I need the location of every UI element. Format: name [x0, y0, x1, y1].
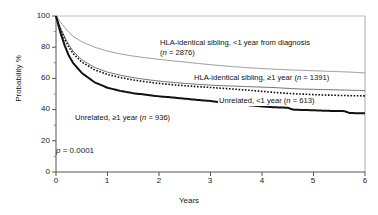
series-label-line1: HLA-identical sibling, <1 year from diag… [160, 38, 310, 47]
series-label-prefix: Unrelated, ≥1 year ( [75, 113, 142, 122]
series-lines [56, 16, 365, 113]
series-label-hla-sibling-lt1year: HLA-identical sibling, <1 year from diag… [159, 38, 311, 57]
series-label-unrelated-ge1year: Unrelated, ≥1 year (n = 936) [74, 113, 171, 123]
y-tick-20: 20 [28, 136, 50, 145]
p-value-text: = 0.0001 [60, 146, 94, 155]
y-tick-100: 100 [28, 11, 50, 20]
x-tick-3: 3 [200, 176, 220, 185]
series-label-count: = 1391) [301, 73, 329, 82]
series-label-unrelated-lt1year: Unrelated, <1 year (n = 613) [218, 96, 315, 106]
y-tick-80: 80 [28, 42, 50, 51]
y-tick-40: 40 [28, 104, 50, 113]
p-value-annotation: p = 0.0001 [56, 146, 94, 155]
y-axis-title: Probability % [14, 39, 23, 119]
x-tick-4: 4 [252, 176, 272, 185]
x-tick-0: 0 [46, 176, 66, 185]
x-axis-title: Years [0, 196, 378, 205]
series-label-prefix: Unrelated, <1 year ( [219, 96, 286, 105]
x-tick-1: 1 [97, 176, 117, 185]
x-tick-2: 2 [149, 176, 169, 185]
x-tick-5: 5 [303, 176, 323, 185]
series-label-hla-sibling-ge1year: HLA-identical sibling, ≥1 year (n = 1391… [193, 73, 330, 83]
y-tick-0: 0 [28, 167, 50, 176]
series-label-count: = 936) [146, 113, 170, 122]
series-label-count: = 613) [291, 96, 315, 105]
x-tick-6: 6 [355, 176, 375, 185]
series-label-line2-count: = 2876) [167, 48, 195, 57]
y-tick-60: 60 [28, 73, 50, 82]
survival-curve-figure: 100 80 60 40 20 0 0 1 2 3 4 5 6 Probabil… [0, 0, 378, 215]
series-label-prefix: HLA-identical sibling, ≥1 year ( [194, 73, 297, 82]
